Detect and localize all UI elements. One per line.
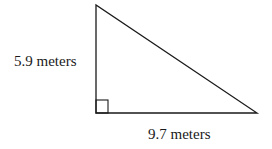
horizontal-leg-label: 9.7 meters	[148, 126, 210, 143]
right-angle-marker	[96, 100, 108, 113]
vertical-leg-label: 5.9 meters	[14, 53, 76, 70]
right-triangle	[96, 5, 257, 113]
triangle-figure	[0, 0, 272, 149]
